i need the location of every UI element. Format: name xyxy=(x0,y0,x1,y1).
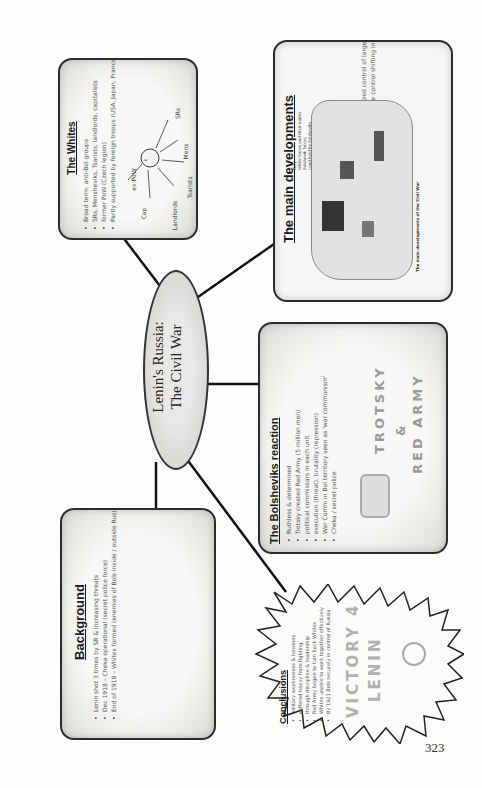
label-cap: Cap xyxy=(140,208,147,220)
map-region-mid xyxy=(340,161,354,179)
background-bullet: Lenin shot 3 times by SR & increasing th… xyxy=(91,522,100,712)
conclusions-bullet: Red Army began to turn back Whites xyxy=(311,604,318,714)
label-tsarists: Tsarists xyxy=(186,176,193,198)
lenin-face-icon xyxy=(402,642,426,666)
central-title-line1: Lenin's Russia: xyxy=(149,312,167,422)
conclusions-bullet: Whites unable to work together effective… xyxy=(318,604,325,714)
map-legend-item: Land held by Bolsheviks xyxy=(307,90,312,170)
background-box: Background Lenin shot 3 times by SR & in… xyxy=(60,508,216,740)
bolsheviks-bullet: War Comm in Bol territory seen as 'war c… xyxy=(320,334,329,534)
map-region-dark xyxy=(322,201,344,231)
background-bullet: End of 1918 – Whites formed (enemies of … xyxy=(109,522,118,712)
conclusions-bullet: By 1921 Bols securely in control of Russ… xyxy=(325,604,332,714)
page-number: 323 xyxy=(425,740,445,756)
whites-title: The Whites xyxy=(66,64,77,232)
map-region-mid xyxy=(374,131,384,161)
sketch-ampersand: & xyxy=(394,396,408,436)
mind-map-page: Lenin's Russia: The Civil War The Whites… xyxy=(0,0,482,788)
whites-bullet: Broad term: anti-Bol groups xyxy=(81,64,90,222)
main-developments-box: The main developments March 1918 Czech l… xyxy=(273,40,453,302)
label-srs: SRs xyxy=(174,108,181,119)
sketch-red-army: RED ARMY xyxy=(410,354,425,474)
bolsheviks-bullet: Trotsky created Red Army (5 million men) xyxy=(293,334,302,534)
link-whites xyxy=(122,236,160,286)
bolsheviks-title: The Bolsheviks reaction xyxy=(268,334,280,544)
conclusions-bullet: through discipline & leadership xyxy=(304,604,311,714)
bolsheviks-bullet: Cheka / secret police xyxy=(329,334,338,534)
conclusions-bullet: suffered heavy from fighting xyxy=(297,604,304,714)
conclusions-starburst: Conclusions military weaknesses & tensio… xyxy=(252,584,464,744)
central-title-line2: The Civil War xyxy=(167,312,185,422)
label-landlords: Landlords xyxy=(171,201,178,230)
conclusions-bullet: military weaknesses & tensions xyxy=(290,604,297,714)
bolsheviks-bullet: execution (threat), brutality (repressio… xyxy=(311,334,320,534)
link-main-developments xyxy=(188,244,274,304)
civil-war-map xyxy=(311,100,413,280)
bolsheviks-bullet: Ruthless & determined xyxy=(284,334,293,534)
label-ex-pow: ex-PoW xyxy=(130,168,137,190)
sketch-victory: VICTORY 4 xyxy=(344,598,362,718)
background-title: Background xyxy=(72,522,87,722)
map-region-light xyxy=(362,221,374,237)
label-mens: Mens xyxy=(182,144,189,160)
sketch-trotsky: TROTSKY xyxy=(372,334,387,454)
whites-bullet: SRs, Mensheviks, Tsarists, landlords, ca… xyxy=(90,64,99,222)
map-caption: The main developments of the Civil War xyxy=(415,152,420,272)
svg-text:ᴗ: ᴗ xyxy=(144,155,148,162)
whites-box: The Whites Broad term: anti-Bol groups S… xyxy=(58,58,198,240)
bolsheviks-bullet: political commissars in each unit xyxy=(302,334,311,534)
sketch-lenin: LENIN xyxy=(366,602,384,702)
soldier-sketch-icon xyxy=(360,474,390,518)
central-topic: Lenin's Russia: The Civil War xyxy=(143,270,209,470)
conclusions-title: Conclusions xyxy=(278,604,288,724)
background-bullet: Dec 1918 – Cheka operational (secret pol… xyxy=(100,522,109,712)
bolsheviks-box: The Bolsheviks reaction Ruthless & deter… xyxy=(258,322,448,554)
